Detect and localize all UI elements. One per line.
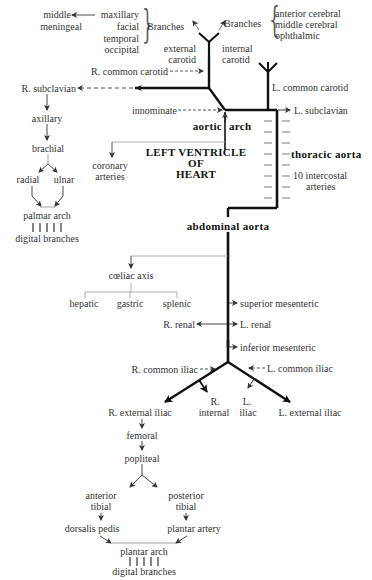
label-leg-digital-branches: digital branches bbox=[112, 566, 176, 577]
label-r-common-carotid: R. common carotid bbox=[91, 66, 168, 77]
label-superior-mesenteric: superior mesenteric bbox=[240, 298, 319, 309]
label-l-subclavian: L. subclavian bbox=[294, 105, 348, 116]
label-middle-meningeal-2: meningeal bbox=[40, 21, 82, 32]
label-axillary: axillary bbox=[32, 113, 63, 124]
label-middle-cerebral: middle cerebral bbox=[275, 19, 337, 30]
label-iliac: iliac bbox=[239, 407, 256, 418]
label-radial: radial bbox=[17, 174, 40, 185]
label-anterior-tibial-1: anterior bbox=[85, 490, 116, 501]
label-hepatic: hepatic bbox=[70, 298, 99, 309]
label-internal-iliac-r: R. bbox=[210, 396, 219, 407]
label-anterior-tibial-2: tibial bbox=[91, 501, 112, 512]
label-coronary-2: arteries bbox=[95, 171, 124, 182]
label-internal: internal bbox=[199, 407, 230, 418]
label-plantar-artery: plantar artery bbox=[167, 523, 221, 534]
label-internal-carotid-1: internal bbox=[222, 43, 253, 54]
label-popliteal: popliteal bbox=[125, 453, 160, 464]
label-posterior-tibial-1: posterior bbox=[168, 490, 204, 501]
carotid-lines bbox=[193, 21, 277, 110]
label-innominate: innominate bbox=[132, 105, 177, 116]
label-l-common-iliac: L. common iliac bbox=[267, 363, 333, 374]
label-gastric: gastric bbox=[117, 298, 144, 309]
label-maxillary: maxillary bbox=[101, 9, 139, 20]
label-external-carotid-2: carotid bbox=[168, 54, 196, 65]
label-l-external-iliac: L. external iliac bbox=[278, 407, 341, 418]
label-occipital: occipital bbox=[105, 44, 139, 55]
label-plantar-arch: plantar arch bbox=[120, 546, 167, 557]
label-palmar-arch: palmar arch bbox=[23, 210, 70, 221]
label-posterior-tibial-2: tibial bbox=[176, 501, 197, 512]
label-middle-meningeal-1: middle bbox=[43, 9, 71, 20]
label-dorsalis-pedis: dorsalis pedis bbox=[65, 523, 120, 534]
label-external-branches: Branches bbox=[147, 21, 184, 32]
label-aortic: aortic bbox=[193, 121, 222, 132]
label-coeliac-axis: cœliac axis bbox=[109, 270, 154, 281]
label-facial: facial bbox=[117, 21, 139, 32]
label-heart: HEART bbox=[176, 169, 216, 180]
label-anterior-cerebral: anterior cerebral bbox=[275, 8, 341, 19]
label-brachial: brachial bbox=[32, 143, 64, 154]
label-l-renal: L. renal bbox=[240, 319, 271, 330]
palmar-digital-ticks bbox=[33, 223, 61, 232]
label-external-carotid-1: external bbox=[164, 43, 196, 54]
label-r-subclavian: R. subclavian bbox=[22, 83, 76, 94]
label-internal-carotid-2: carotid bbox=[222, 54, 250, 65]
label-arch: arch bbox=[229, 121, 251, 132]
plantar-digital-ticks bbox=[130, 557, 158, 566]
label-arm-digital-branches: digital branches bbox=[15, 233, 79, 244]
label-intercostal-1: 10 intercostal bbox=[293, 170, 347, 181]
label-r-common-iliac: R. common iliac bbox=[132, 364, 198, 375]
label-internal-branches: Branches bbox=[224, 18, 261, 29]
label-intercostal-2: arteries bbox=[306, 181, 335, 192]
label-r-external-iliac: R. external iliac bbox=[108, 407, 172, 418]
label-temporal: temporal bbox=[103, 33, 139, 44]
label-abdominal-aorta: abdominal aorta bbox=[187, 221, 269, 232]
label-thoracic-aorta: thoracic aorta bbox=[291, 149, 361, 160]
label-r-renal: R. renal bbox=[163, 319, 195, 330]
label-coronary-1: coronary bbox=[92, 160, 128, 171]
label-ulnar: ulnar bbox=[54, 174, 75, 185]
label-internal-iliac-l: L. bbox=[243, 396, 252, 407]
label-ophthalmic: ophthalmic bbox=[275, 30, 320, 41]
label-femoral: femoral bbox=[126, 430, 157, 441]
label-splenic: splenic bbox=[163, 298, 191, 309]
label-l-common-carotid: L. common carotid bbox=[272, 82, 348, 93]
label-inferior-mesenteric: inferior mesenteric bbox=[240, 342, 316, 353]
